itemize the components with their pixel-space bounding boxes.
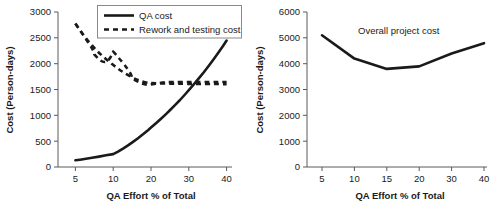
y-tick-label: 4000 bbox=[279, 58, 300, 69]
x-tick-label: 20 bbox=[414, 173, 425, 184]
x-tick-label: 40 bbox=[479, 173, 490, 184]
chart-panel-overall-project-cost: 0 1000 2000 3000 4000 5000 6000 5 10 bbox=[250, 0, 499, 216]
chart-panel-qa-cost-vs-rework: 0 500 1000 1500 2000 2500 3000 5 10 20 bbox=[0, 0, 250, 216]
x-tick-label: 5 bbox=[319, 173, 324, 184]
y-axis-title-right: Cost (Person-days) bbox=[254, 46, 265, 133]
series-qa-cost bbox=[75, 41, 226, 161]
y-tick-label: 6000 bbox=[279, 6, 300, 17]
x-tick-label: 10 bbox=[108, 173, 119, 184]
x-tick-label: 10 bbox=[349, 173, 360, 184]
axis-lines-left bbox=[58, 12, 232, 167]
x-tick-label: 5 bbox=[73, 173, 78, 184]
legend-label-qa-cost: QA cost bbox=[139, 10, 173, 21]
x-tick-marks-right bbox=[322, 167, 484, 171]
figure-two-line-charts: 0 500 1000 1500 2000 2500 3000 5 10 20 bbox=[0, 0, 499, 216]
legend-left: QA cost Rework and testing cost bbox=[98, 6, 242, 39]
chart-svg-left: 0 500 1000 1500 2000 2500 3000 5 10 20 bbox=[0, 0, 250, 216]
y-tick-marks-right bbox=[303, 12, 307, 167]
x-tick-label: 20 bbox=[146, 173, 157, 184]
y-tick-label: 3000 bbox=[279, 84, 300, 95]
chart-svg-right: 0 1000 2000 3000 4000 5000 6000 5 10 bbox=[250, 0, 499, 216]
y-tick-label: 0 bbox=[295, 161, 300, 172]
x-axis-title-right: QA Effort % of Total bbox=[355, 190, 444, 201]
x-axis-title-left: QA Effort % of Total bbox=[106, 190, 195, 201]
x-tick-label: 30 bbox=[446, 173, 457, 184]
x-tick-label: 15 bbox=[382, 173, 393, 184]
y-tick-label: 500 bbox=[35, 136, 51, 147]
y-tick-labels-right: 0 1000 2000 3000 4000 5000 6000 bbox=[279, 6, 300, 172]
y-tick-label: 2500 bbox=[30, 32, 51, 43]
y-tick-label: 2000 bbox=[279, 110, 300, 121]
y-tick-label: 0 bbox=[46, 161, 51, 172]
y-tick-labels-left: 0 500 1000 1500 2000 2500 3000 bbox=[30, 6, 51, 172]
x-tick-label: 30 bbox=[184, 173, 195, 184]
y-tick-label: 5000 bbox=[279, 32, 300, 43]
y-tick-label: 2000 bbox=[30, 58, 51, 69]
x-tick-label: 40 bbox=[221, 173, 232, 184]
series-overall-project-cost bbox=[322, 35, 484, 69]
x-tick-labels-right: 5 10 15 20 30 40 bbox=[319, 173, 489, 184]
x-tick-marks-left bbox=[75, 167, 226, 171]
y-axis-title-left: Cost (Person-days) bbox=[4, 46, 15, 133]
legend-label-rework-and-testing-cost: Rework and testing cost bbox=[139, 24, 241, 35]
x-tick-labels-left: 5 10 20 30 40 bbox=[73, 173, 232, 184]
annotation-overall-project-cost: Overall project cost bbox=[358, 25, 440, 36]
y-tick-label: 1500 bbox=[30, 84, 51, 95]
y-tick-label: 1000 bbox=[30, 110, 51, 121]
y-tick-label: 3000 bbox=[30, 6, 51, 17]
y-tick-label: 1000 bbox=[279, 136, 300, 147]
y-tick-marks-left bbox=[54, 12, 58, 167]
